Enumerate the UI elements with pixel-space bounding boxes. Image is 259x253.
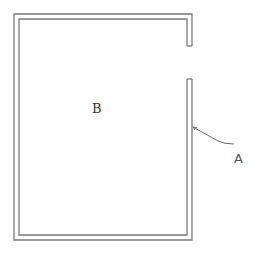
leader-line-a [193,127,234,144]
room-label-b: B [92,101,102,116]
wall-label-a: A [234,151,243,166]
floor-plan-diagram: B A [0,0,259,253]
outer-wall-line [14,14,192,240]
inner-wall-line [19,19,187,235]
